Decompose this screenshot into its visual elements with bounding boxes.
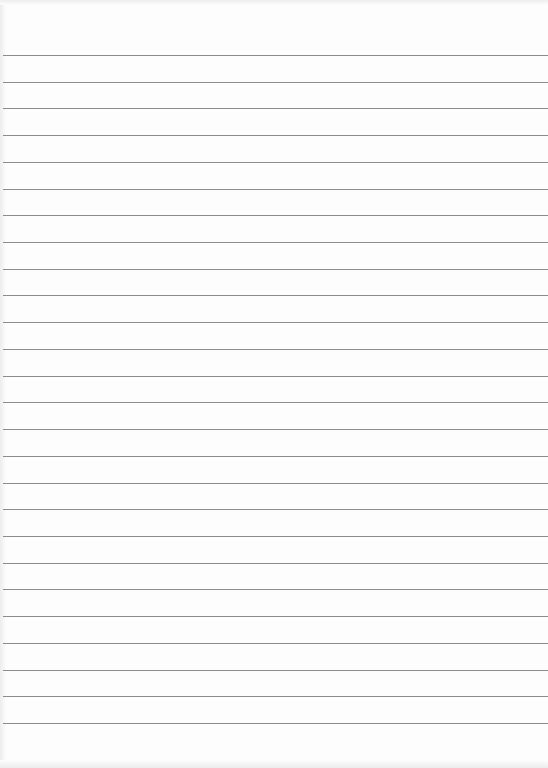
ruled-line [3, 536, 548, 537]
ruled-line [3, 696, 548, 697]
ruled-line [3, 429, 548, 430]
ruled-line [3, 135, 548, 136]
ruled-line [3, 509, 548, 510]
ruled-line [3, 242, 548, 243]
page-top-edge-shadow [0, 0, 548, 5]
ruled-line [3, 589, 548, 590]
ruled-line [3, 563, 548, 564]
ruled-line [3, 643, 548, 644]
ruled-line [3, 723, 548, 724]
ruled-line [3, 483, 548, 484]
ruled-line [3, 269, 548, 270]
ruled-line [3, 189, 548, 190]
ruled-line [3, 108, 548, 109]
page-left-edge-shadow [0, 0, 6, 768]
ruled-line [3, 295, 548, 296]
ruled-line [3, 322, 548, 323]
ruled-line [3, 402, 548, 403]
ruled-line [3, 616, 548, 617]
ruled-line [3, 376, 548, 377]
ruled-line [3, 82, 548, 83]
lined-paper-page [0, 0, 548, 768]
ruled-line [3, 215, 548, 216]
ruled-line [3, 349, 548, 350]
page-bottom-edge-shadow [0, 760, 548, 768]
ruled-line [3, 162, 548, 163]
ruled-line [3, 55, 548, 56]
ruled-line [3, 670, 548, 671]
ruled-line [3, 456, 548, 457]
